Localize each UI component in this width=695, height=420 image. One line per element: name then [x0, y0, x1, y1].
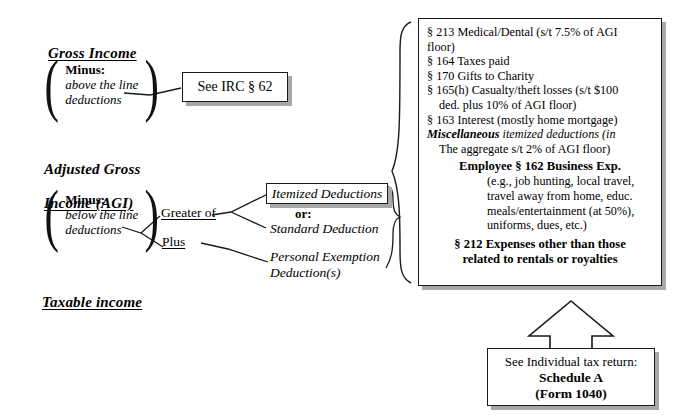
itemized-deductions-label: Itemized Deductions [272, 186, 383, 202]
above-the-line-line1: above the line [65, 77, 138, 92]
miscellaneous-rest: itemized deductions (in [499, 127, 615, 141]
sec-212-line2: related to rentals or royalties [427, 252, 653, 267]
stage-taxable-income: Taxable income [42, 277, 142, 311]
below-the-line-line1: below the line [65, 207, 138, 222]
itemized-deductions-detail-panel: § 213 Medical/Dental (s/t 7.5% of AGI fl… [418, 18, 662, 286]
employee-example-1: (e.g., job hunting, local travel, [427, 174, 653, 189]
or-label: or: [295, 206, 312, 222]
brace-panel-left [392, 22, 411, 283]
sec-212-line1: § 212 Expenses other than those [427, 237, 653, 252]
employee-business-exp-heading: Employee § 162 Business Exp. [427, 159, 653, 174]
deduction-item-213: § 213 Medical/Dental (s/t 7.5% of AGI [427, 25, 653, 40]
below-the-line-line2: deductions [65, 222, 138, 237]
employee-example-3: meals/entertainment (at 50%), [427, 204, 653, 219]
deduction-item-164: § 164 Taxes paid [427, 54, 653, 69]
schedule-a-line1: See Individual tax return: [505, 354, 638, 370]
itemized-deductions-box[interactable]: Itemized Deductions [266, 183, 388, 204]
irc-62-box[interactable]: See IRC § 62 [182, 72, 288, 102]
schedule-a-line2: Schedule A [539, 370, 603, 386]
arrow-schedule-a-to-panel [529, 301, 613, 352]
deduction-item-163: § 163 Interest (mostly home mortgage) [427, 113, 653, 128]
deduction-item-213-cont: floor) [427, 40, 653, 55]
miscellaneous-deductions-cont: The aggregate s/t 2% of AGI floor) [427, 142, 653, 157]
stage-gross-income: Gross Income [48, 28, 137, 62]
deduction-item-170: § 170 Gifts to Charity [427, 69, 653, 84]
employee-example-2: travel away from home, educ. [427, 189, 653, 204]
irc-62-label: See IRC § 62 [197, 79, 272, 95]
group-above-the-line-deductions: ( Minus: above the line deductions ) [40, 62, 164, 107]
schedule-a-line3: (Form 1040) [535, 386, 607, 402]
deduction-item-165h: § 165(h) Casualty/theft losses (s/t $100 [427, 83, 653, 98]
group-below-the-line-deductions: ( Minus: below the line deductions ) [40, 192, 164, 237]
connector-greater-of-fork [212, 194, 268, 228]
employee-example-4: uniforms, dues, etc.) [427, 218, 653, 233]
above-the-line-keyword: Minus: [65, 62, 138, 77]
below-the-line-keyword: Minus: [65, 192, 138, 207]
miscellaneous-keyword: Miscellaneous [427, 127, 499, 141]
connector-plus-to-personal-exemption [201, 243, 268, 262]
miscellaneous-deductions-line: Miscellaneous itemized deductions (in [427, 127, 653, 142]
personal-exemption-line2: Deduction(s) [270, 265, 380, 281]
personal-exemption-line1: Personal Exemption [270, 249, 380, 265]
above-the-line-line2: deductions [65, 92, 138, 107]
personal-exemption-label: Personal Exemption Deduction(s) [270, 249, 380, 281]
branch-label-greater-of: Greater of [161, 205, 216, 221]
standard-deduction-label: Standard Deduction [270, 221, 379, 237]
deduction-item-165h-cont: ded. plus 10% of AGI floor) [427, 98, 653, 113]
branch-label-plus: Plus [162, 234, 185, 250]
schedule-a-box[interactable]: See Individual tax return: Schedule A (F… [487, 348, 655, 406]
brace-itemized-to-panel [386, 186, 400, 268]
